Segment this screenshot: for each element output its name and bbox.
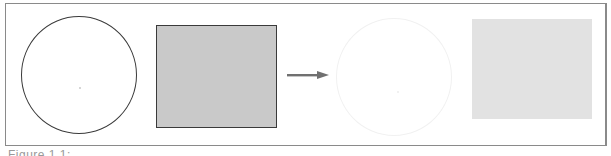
gray-square-shape: [156, 25, 277, 128]
figure-frame: [5, 3, 607, 146]
circle-outline-shape: [21, 16, 137, 134]
figure-caption: Figure 1.1: ...: [8, 148, 86, 156]
faint-square-shape: [472, 19, 592, 119]
circle-center-dot: [79, 87, 81, 89]
faint-circle-center-dot: [397, 91, 399, 93]
right-arrow-icon: [287, 71, 329, 79]
faint-circle-shape: [336, 18, 452, 136]
